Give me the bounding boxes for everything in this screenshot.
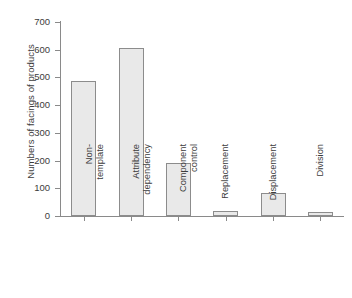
y-axis-line xyxy=(60,21,61,217)
x-axis-label: Non- template xyxy=(84,144,105,224)
y-axis-tick xyxy=(55,50,60,51)
y-axis-tick-label: 300 xyxy=(10,127,50,138)
y-axis-tick xyxy=(55,133,60,134)
y-axis-tick-label: 100 xyxy=(10,182,50,193)
x-axis-label: Attribute dependency xyxy=(131,144,152,224)
x-axis-label: Component control xyxy=(178,144,199,224)
bar-chart-figure: Numbers of facings of products 010020030… xyxy=(0,0,352,298)
y-axis-tick xyxy=(55,188,60,189)
x-axis-label: Displacement xyxy=(268,144,279,224)
x-axis-label: Division xyxy=(315,144,326,224)
y-axis-tick-label: 600 xyxy=(10,44,50,55)
y-axis-tick-label: 400 xyxy=(10,99,50,110)
y-axis-tick xyxy=(55,22,60,23)
y-axis-tick xyxy=(55,105,60,106)
x-axis-label: Replacement xyxy=(220,144,231,224)
y-axis-tick-label: 700 xyxy=(10,16,50,27)
y-axis-tick-label: 0 xyxy=(10,210,50,221)
y-axis-tick xyxy=(55,161,60,162)
y-axis-tick-label: 500 xyxy=(10,71,50,82)
y-axis-tick xyxy=(55,216,60,217)
y-axis-tick-label: 200 xyxy=(10,155,50,166)
y-axis-tick xyxy=(55,77,60,78)
